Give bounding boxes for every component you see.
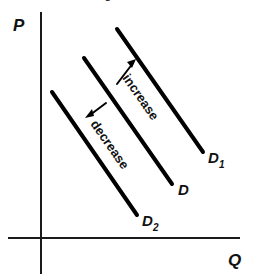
curve-label-d: D — [178, 181, 189, 198]
axes-group — [8, 12, 240, 274]
curve-label-d1: D — [208, 149, 219, 166]
decrease-annotation-group: decrease — [85, 103, 132, 172]
horizontal-axis-label: Q — [228, 251, 241, 270]
decrease-arrow-icon — [85, 103, 106, 118]
curve-label-d1-subscript: 1 — [219, 159, 225, 170]
demand-shift-chart: P Q D 1 D D 2 increase — [0, 0, 257, 274]
demand-shift-figure: Change in Demand P Q D 1 D D 2 — [0, 0, 257, 274]
curve-label-d2-subscript: 2 — [152, 222, 159, 233]
vertical-axis-label: P — [13, 16, 25, 35]
decrease-label: decrease — [88, 117, 133, 172]
curve-label-d2: D — [142, 212, 153, 229]
